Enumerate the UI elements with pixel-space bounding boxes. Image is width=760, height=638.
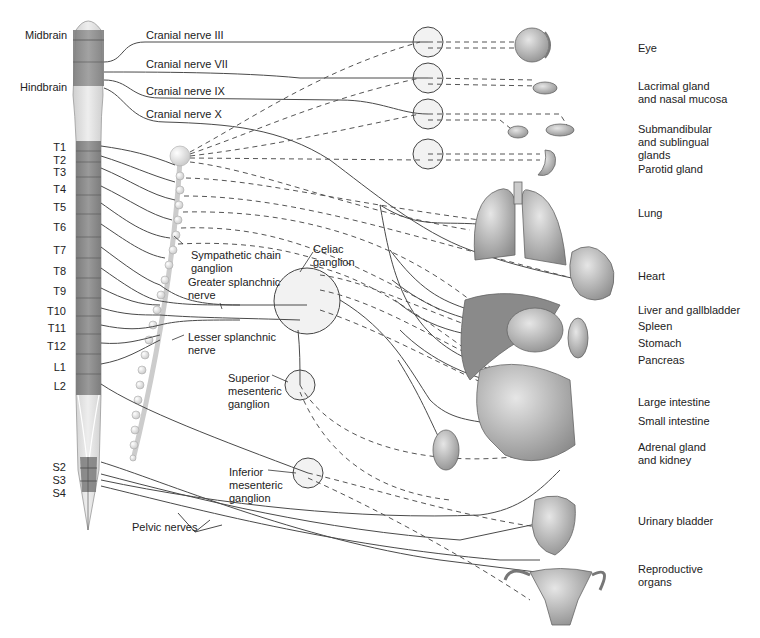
label-lacrimal-gland: Lacrimal gland and nasal mucosa xyxy=(638,80,727,106)
intestines-organ xyxy=(477,364,575,460)
segment-label: S2 xyxy=(36,461,66,473)
segment-label: T2 xyxy=(36,154,66,166)
label-cranial-nerve-ix: Cranial nerve IX xyxy=(146,85,225,98)
label-greater-splanchnic-nerve: Greater splanchnic nerve xyxy=(188,276,280,302)
label-cranial-nerve-x: Cranial nerve X xyxy=(146,108,222,121)
cranial-postganglionic xyxy=(428,42,570,160)
heart-organ xyxy=(570,247,614,300)
segment-label: T4 xyxy=(36,183,66,195)
label-lesser-splanchnic-nerve: Lesser splanchnic nerve xyxy=(188,331,276,357)
segment-label: T7 xyxy=(36,244,66,256)
segment-label: T12 xyxy=(36,340,66,352)
segment-label: T1 xyxy=(36,141,66,153)
label-adrenal-kidney: Adrenal gland and kidney xyxy=(638,441,706,467)
label-pancreas: Pancreas xyxy=(638,354,684,367)
label-pelvic-nerves: Pelvic nerves xyxy=(132,521,197,534)
label-liver-gallbladder: Liver and gallbladder xyxy=(638,304,740,317)
label-inferior-mesenteric-ganglion: Inferior mesenteric ganglion xyxy=(229,466,283,505)
segment-label: L2 xyxy=(36,380,66,392)
label-superior-mesenteric-ganglion: Superior mesenteric ganglion xyxy=(228,372,282,411)
label-cranial-nerve-iii: Cranial nerve III xyxy=(146,29,224,42)
uterus-organ xyxy=(530,569,592,626)
segment-label: T8 xyxy=(36,265,66,277)
submandibular-gland-organ xyxy=(508,126,528,138)
label-submandibular-glands: Submandibular and sublingual glands xyxy=(638,123,712,162)
autonomic-nervous-system-diagram: Midbrain Hindbrain T1 T2 T3 T4 T5 T6 T7 … xyxy=(0,0,760,638)
lacrimal-gland-organ xyxy=(533,82,557,94)
label-small-intestine: Small intestine xyxy=(638,415,710,428)
label-eye: Eye xyxy=(638,42,657,55)
segment-label: L1 xyxy=(36,361,66,373)
segment-label: T5 xyxy=(36,201,66,213)
label-spleen: Spleen xyxy=(638,320,672,333)
segment-label: T6 xyxy=(36,221,66,233)
segment-label: T11 xyxy=(36,322,66,334)
ganglia xyxy=(274,27,443,488)
kidney-organ xyxy=(433,430,459,470)
eye-organ xyxy=(515,28,550,62)
label-reproductive-organs: Reproductive organs xyxy=(638,563,703,589)
label-large-intestine: Large intestine xyxy=(638,396,710,409)
label-cranial-nerve-vii: Cranial nerve VII xyxy=(146,58,228,71)
lung-organ xyxy=(474,182,566,265)
stomach-organ xyxy=(507,308,563,352)
segment-label: S3 xyxy=(36,474,66,486)
organs xyxy=(433,28,614,625)
label-celiac-ganglion: Celiac ganglion xyxy=(313,243,355,269)
segment-label: T9 xyxy=(36,285,66,297)
sublingual-gland-organ xyxy=(546,124,574,136)
segment-label: T10 xyxy=(36,305,66,317)
segment-label: T3 xyxy=(36,166,66,178)
label-hindbrain: Hindbrain xyxy=(20,81,67,94)
pelvic-nerves xyxy=(101,462,560,575)
label-stomach: Stomach xyxy=(638,337,681,350)
bladder-organ xyxy=(532,496,575,555)
parotid-gland-organ xyxy=(538,150,556,176)
spleen-organ xyxy=(568,318,588,358)
label-sympathetic-chain-ganglion: Sympathetic chain ganglion xyxy=(191,249,281,275)
label-urinary-bladder: Urinary bladder xyxy=(638,515,713,528)
label-midbrain: Midbrain xyxy=(25,29,67,42)
segment-label: S4 xyxy=(36,487,66,499)
label-heart: Heart xyxy=(638,270,665,283)
label-lung: Lung xyxy=(638,207,662,220)
label-parotid-gland: Parotid gland xyxy=(638,163,703,176)
spinal-cord xyxy=(73,21,104,530)
